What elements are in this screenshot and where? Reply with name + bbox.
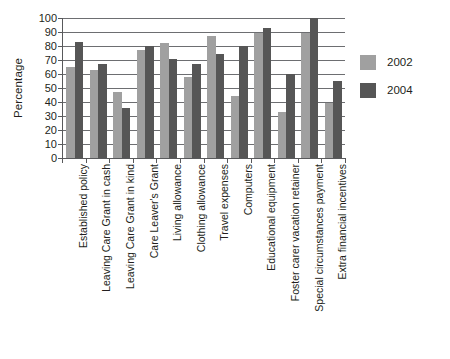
bar-2004 — [169, 59, 178, 158]
x-tick-label-text: Foster carer vacation retainer — [290, 164, 301, 301]
legend-item: 2002 — [360, 55, 445, 70]
x-tick-label-text: Leaving Care Grant in kind — [125, 164, 136, 289]
x-tick-label: Foster carer vacation retainer — [290, 164, 301, 301]
x-tick-label-text: Computers — [243, 164, 254, 215]
plot-area: 0102030405060708090100 — [62, 18, 345, 158]
bar-2002 — [278, 112, 287, 158]
bar-2004 — [98, 64, 107, 158]
x-tick-mark — [204, 158, 205, 163]
bar-chart-figure: Percentage 0102030405060708090100 Establ… — [0, 0, 450, 359]
bar-group — [251, 18, 275, 158]
x-tick-label: Extra financial incentives — [337, 164, 348, 280]
x-tick-mark — [156, 158, 157, 163]
y-tick-label: 60 — [45, 69, 57, 80]
x-tick-label-text: Travel expenses — [219, 164, 230, 241]
bar-2004 — [333, 81, 342, 158]
legend-label-2002: 2002 — [387, 57, 413, 69]
bar-2004 — [122, 108, 131, 158]
bar-2004 — [310, 18, 319, 158]
x-tick-mark — [251, 158, 252, 163]
bar-2002 — [184, 77, 193, 158]
x-tick-label: Care Leaver's Grant — [149, 164, 160, 258]
bar-2002 — [137, 50, 146, 158]
x-tick-mark — [133, 158, 134, 163]
y-tick-label: 80 — [45, 41, 57, 52]
bar-2002 — [254, 33, 263, 158]
bar-group — [275, 18, 299, 158]
x-tick-label-text: Educational equipment — [266, 164, 277, 271]
y-tick-label: 30 — [45, 111, 57, 122]
x-tick-label: Special circumstances payment — [314, 164, 325, 312]
y-tick-label: 20 — [45, 125, 57, 136]
bar-group — [181, 18, 205, 158]
x-tick-label: Educational equipment — [266, 164, 277, 271]
bar-2002 — [66, 67, 75, 158]
bar-2004 — [145, 46, 154, 158]
y-tick-label: 90 — [45, 27, 57, 38]
y-tick-label: 70 — [45, 55, 57, 66]
x-tick-label: Leaving Care Grant in kind — [125, 164, 136, 289]
bar-2002 — [207, 36, 216, 158]
x-axis-labels: Established policyLeaving Care Grant in … — [62, 164, 345, 314]
bar-2002 — [160, 43, 169, 158]
x-tick-label: Living allowance — [172, 164, 183, 241]
bar-group — [322, 18, 346, 158]
bar-2004 — [192, 64, 201, 158]
x-tick-mark — [274, 158, 275, 163]
x-tick-mark — [321, 158, 322, 163]
bar-2002 — [113, 92, 122, 158]
legend-swatch-2002 — [360, 55, 376, 70]
y-tick-label: 0 — [51, 153, 57, 164]
x-tick-mark — [62, 158, 63, 163]
y-tick-label: 50 — [45, 83, 57, 94]
x-tick-label: Travel expenses — [219, 164, 230, 241]
bar-group — [87, 18, 111, 158]
bar-2004 — [75, 42, 84, 158]
bar-group — [204, 18, 228, 158]
bar-2004 — [286, 74, 295, 158]
x-tick-label-text: Extra financial incentives — [337, 164, 348, 280]
x-tick-label: Computers — [243, 164, 254, 215]
x-tick-label: Clothing allowance — [196, 164, 207, 252]
legend-swatch-2004 — [360, 83, 376, 98]
bar-2004 — [216, 54, 225, 158]
bar-2002 — [90, 70, 99, 158]
x-tick-label-text: Clothing allowance — [196, 164, 207, 252]
bar-2004 — [263, 28, 272, 158]
bar-2002 — [231, 96, 240, 158]
bar-group — [63, 18, 87, 158]
bar-group — [157, 18, 181, 158]
y-axis-title: Percentage — [12, 18, 28, 158]
y-tick-label: 10 — [45, 139, 57, 150]
x-tick-label-text: Living allowance — [172, 164, 183, 241]
bar-groups — [63, 18, 345, 158]
x-tick-mark — [109, 158, 110, 163]
x-tick-label: Established policy — [78, 164, 89, 248]
legend-label-2004: 2004 — [387, 85, 413, 97]
x-axis-ticks — [62, 158, 345, 163]
bar-2002 — [301, 33, 310, 158]
x-tick-label-text: Special circumstances payment — [314, 164, 325, 312]
bar-2004 — [239, 46, 248, 158]
x-tick-label-text: Care Leaver's Grant — [149, 164, 160, 258]
bar-group — [298, 18, 322, 158]
x-tick-mark — [298, 158, 299, 163]
x-tick-mark — [227, 158, 228, 163]
chart-legend: 20022004 — [360, 55, 445, 111]
bar-2002 — [325, 103, 334, 158]
x-tick-label-text: Established policy — [78, 164, 89, 248]
legend-item: 2004 — [360, 83, 445, 98]
y-tick-label: 40 — [45, 97, 57, 108]
x-tick-mark — [86, 158, 87, 163]
x-tick-label: Leaving Care Grant in cash — [101, 164, 112, 292]
bar-group — [110, 18, 134, 158]
bar-group — [134, 18, 158, 158]
x-tick-label-text: Leaving Care Grant in cash — [101, 164, 112, 292]
y-tick-label: 100 — [39, 13, 57, 24]
x-tick-mark — [180, 158, 181, 163]
bar-group — [228, 18, 252, 158]
x-tick-mark — [345, 158, 346, 163]
